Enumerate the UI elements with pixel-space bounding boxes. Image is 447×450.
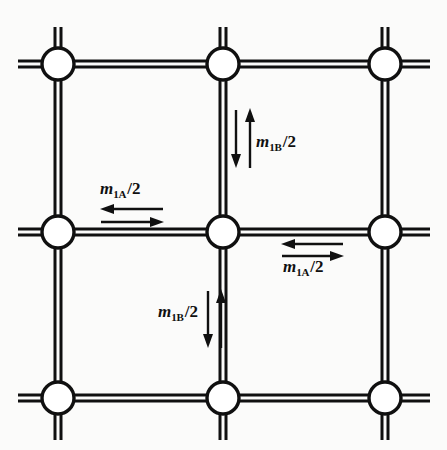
annotation-label-m1b-top: m1B/2 [256,133,296,153]
node-bottom-center [207,382,239,414]
suffix-half: /2 [126,179,140,198]
annotation-label-m1a-left: m1A/2 [100,180,141,200]
lattice-diagram: m1B/2 m1A/2 m1A/2 m1B/2 [0,0,447,450]
right-arrow-icon [101,217,164,227]
symbol-m: m [256,132,269,151]
up-arrow-icon [245,108,255,168]
node-top-center [207,48,239,80]
symbol-m: m [158,302,171,321]
annotation-label-m1b-bot: m1B/2 [158,303,198,323]
arrows-m1a-left [100,204,164,227]
suffix-half: /2 [309,257,323,276]
node-bottom-left [42,382,74,414]
subscript-1a: 1A [296,266,309,278]
node-mid-center [207,216,239,248]
suffix-half: /2 [184,302,198,321]
subscript-1b: 1B [171,311,183,323]
subscript-1a: 1A [113,188,126,200]
down-arrow-icon [231,110,241,168]
arrows-m1b-bot [203,289,226,348]
subscript-1b: 1B [269,141,281,153]
left-arrow-icon [100,204,163,214]
node-bottom-right [369,382,401,414]
node-mid-right [369,216,401,248]
node-mid-left [42,216,74,248]
symbol-m: m [283,257,296,276]
node-top-right [369,48,401,80]
down-arrow-icon [203,291,213,348]
suffix-half: /2 [282,132,296,151]
symbol-m: m [100,179,113,198]
lattice-graphic [0,0,447,450]
annotation-label-m1a-right: m1A/2 [283,258,324,278]
left-arrow-icon [281,239,343,249]
node-top-left [42,48,74,80]
arrows-m1b-top [231,108,255,168]
